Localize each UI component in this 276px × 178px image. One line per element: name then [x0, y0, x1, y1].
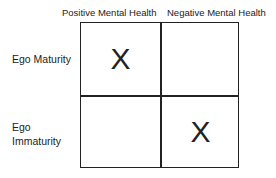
column-header-negative-mental-health: Negative Mental Health [167, 7, 266, 18]
cell-immaturity-negative: X [161, 96, 240, 168]
row-label-line: Ego Maturity [12, 53, 71, 65]
row-label-line: Ego [12, 120, 61, 134]
two-by-two-grid: X X [80, 22, 239, 168]
row-label-ego-maturity: Ego Maturity [12, 52, 71, 66]
column-header-positive-mental-health: Positive Mental Health [62, 7, 157, 18]
cell-immaturity-positive [81, 96, 160, 168]
row-label-line: Immaturity [12, 134, 61, 148]
cell-maturity-positive: X [81, 23, 160, 95]
row-label-ego-immaturity: Ego Immaturity [12, 120, 61, 148]
cell-maturity-negative [161, 23, 240, 95]
